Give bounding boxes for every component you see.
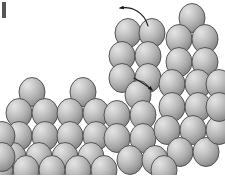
sphere-diagram (0, 0, 225, 175)
marks-group (2, 2, 6, 18)
sphere (117, 146, 143, 175)
figure-canvas: Sphere cluster packing diagram Four clus… (0, 0, 225, 175)
crop-mark (2, 2, 6, 18)
spheres-group (0, 4, 225, 176)
sphere (206, 93, 225, 122)
